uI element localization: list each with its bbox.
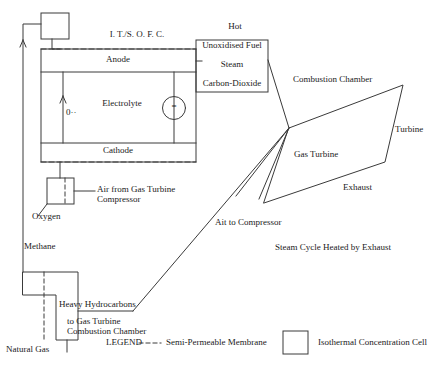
electrolyte-label: Electrolyte bbox=[102, 99, 141, 108]
legend-cell-swatch bbox=[283, 331, 308, 354]
heavy-hydrocarbons-label: Heavy Hydrocarbons bbox=[59, 300, 136, 309]
cell-left-lead bbox=[23, 24, 41, 272]
sofc-header-label: I. T./S. O. F. C. bbox=[110, 30, 164, 39]
gas-turbine-parallelogram bbox=[264, 85, 403, 203]
hot-label: Hot bbox=[228, 22, 242, 31]
oxygen-ion-label: 0·· bbox=[66, 108, 77, 117]
steam-cycle-label: Steam Cycle Heated by Exhaust bbox=[275, 243, 391, 252]
air-intake-line-a bbox=[259, 128, 289, 199]
natural-gas-label: Natural Gas bbox=[6, 345, 49, 354]
combustion-chamber-label: Combustion Chamber bbox=[293, 75, 372, 84]
exhaust-label: Exhaust bbox=[343, 183, 372, 192]
isothermal-cell-box-top bbox=[41, 13, 69, 39]
steam-label: Steam bbox=[221, 60, 244, 69]
carbon-dioxide-label: Carbon-Dioxide bbox=[203, 79, 262, 88]
diagram-canvas: I. T./S. O. F. C. Anode Electrolyte Cath… bbox=[0, 0, 439, 372]
turbine-label: Turbine bbox=[395, 125, 423, 134]
air-intake-line-b bbox=[236, 128, 289, 196]
legend-cell-label: Isothermal Concentration Cell bbox=[318, 338, 427, 347]
air-from-compressor-label: Air from Gas Turbine Compressor bbox=[97, 184, 175, 205]
oxygen-cell-box bbox=[47, 178, 74, 204]
methane-label: Methane bbox=[24, 242, 56, 251]
cell-to-membrane-stub bbox=[52, 39, 60, 49]
fuel-to-combustion-line bbox=[268, 60, 289, 128]
air-to-compressor-label: Ait to Compressor bbox=[215, 218, 282, 227]
dc-load-symbol: = bbox=[171, 102, 176, 111]
legend-title: LEGEND bbox=[106, 338, 142, 347]
cathode-label: Cathode bbox=[103, 146, 133, 155]
legend-membrane-label: Semi-Permeable Membrane bbox=[166, 338, 267, 347]
diagram-vector-layer bbox=[0, 0, 439, 372]
gas-turbine-label: Gas Turbine bbox=[294, 150, 338, 159]
oxygen-label: Oxygen bbox=[32, 212, 61, 221]
unoxidised-fuel-label: Unoxidised Fuel bbox=[202, 41, 262, 50]
anode-label: Anode bbox=[106, 55, 130, 64]
to-combustion-chamber-label: to Gas Turbine Combustion Chamber bbox=[67, 316, 146, 337]
